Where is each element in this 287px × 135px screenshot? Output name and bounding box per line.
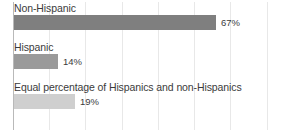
chart-category-group: Non-Hispanic 67% — [14, 2, 287, 30]
bar-chart: Non-Hispanic 67% Hispanic 14% Equal perc… — [0, 0, 287, 135]
bar-row: 19% — [14, 94, 287, 109]
bar-row: 67% — [14, 15, 287, 30]
category-label: Non-Hispanic — [14, 2, 287, 15]
bar-value-label: 67% — [221, 15, 240, 30]
category-label: Equal percentage of Hispanics and non-Hi… — [14, 81, 287, 94]
category-label: Hispanic — [14, 41, 287, 54]
bar-row: 14% — [14, 54, 287, 69]
bar-equal-percentage — [14, 94, 75, 109]
bar-non-hispanic — [14, 15, 216, 30]
bar-value-label: 19% — [80, 94, 99, 109]
bar-value-label: 14% — [63, 54, 82, 69]
chart-category-group: Equal percentage of Hispanics and non-Hi… — [14, 81, 287, 109]
chart-category-group: Hispanic 14% — [14, 41, 287, 69]
chart-plot-area: Non-Hispanic 67% Hispanic 14% Equal perc… — [0, 0, 287, 135]
bar-hispanic — [14, 54, 58, 69]
